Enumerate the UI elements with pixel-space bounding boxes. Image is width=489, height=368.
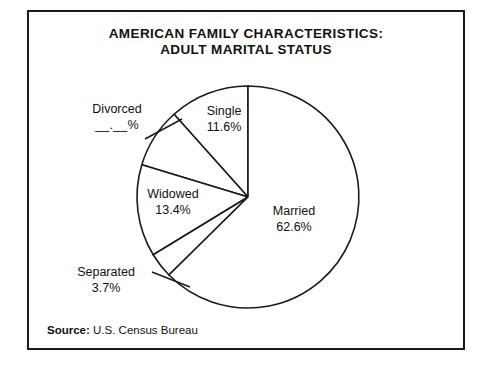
pie-label-widowed-value: 13.4%: [134, 202, 212, 218]
pie-label-single-value: 11.6%: [193, 119, 255, 135]
pie-label-separated-name: Separated: [62, 264, 150, 280]
pie-label-divorced-name: Divorced: [74, 101, 160, 117]
pie-label-single-name: Single: [193, 103, 255, 119]
source-credit: Source: U.S. Census Bureau: [47, 324, 198, 336]
pie-label-separated-value: 3.7%: [62, 280, 150, 296]
pie-chart-graphic: [0, 0, 489, 368]
pie-label-separated: Separated 3.7%: [62, 264, 150, 296]
pie-label-divorced-value-blank: __.__%: [74, 117, 160, 133]
source-credit-label: Source:: [47, 324, 90, 336]
pie-label-married-value: 62.6%: [256, 219, 332, 235]
chart-figure: AMERICAN FAMILY CHARACTERISTICS: ADULT M…: [0, 0, 489, 368]
pie-label-divorced: Divorced __.__%: [74, 101, 160, 133]
pie-label-married-name: Married: [256, 203, 332, 219]
pie-label-single: Single 11.6%: [193, 103, 255, 135]
pie-label-widowed: Widowed 13.4%: [134, 186, 212, 218]
pie-label-married: Married 62.6%: [256, 203, 332, 235]
pie-label-widowed-name: Widowed: [134, 186, 212, 202]
source-credit-text: U.S. Census Bureau: [93, 324, 198, 336]
